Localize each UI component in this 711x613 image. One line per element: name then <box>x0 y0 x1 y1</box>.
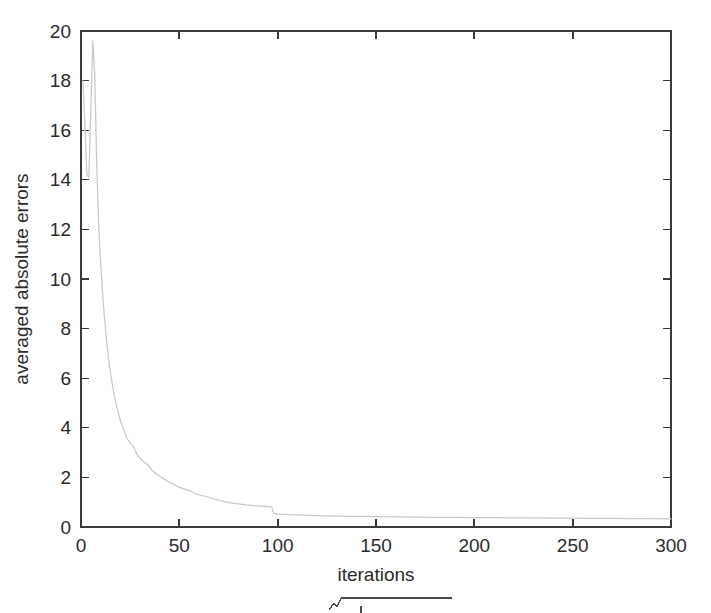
y-tick-label: 12 <box>50 219 71 240</box>
y-tick-label: 18 <box>50 70 71 91</box>
x-tick-label: 250 <box>557 535 589 556</box>
y-tick-label: 6 <box>60 368 71 389</box>
y-tick-marks <box>81 31 671 527</box>
x-axis-title: iterations <box>337 564 414 585</box>
x-tick-label: 300 <box>655 535 687 556</box>
plot-frame <box>81 31 671 527</box>
y-tick-label: 20 <box>50 21 71 42</box>
x-tick-marks <box>81 31 671 527</box>
y-tick-label: 0 <box>60 517 71 538</box>
y-axis-title: averaged absolute errors <box>11 173 32 384</box>
y-tick-labels: 02468101214161820 <box>50 21 72 538</box>
y-tick-label: 10 <box>50 269 71 290</box>
x-tick-labels: 050100150200250300 <box>76 535 687 556</box>
x-tick-label: 100 <box>262 535 294 556</box>
x-tick-label: 150 <box>360 535 392 556</box>
y-tick-label: 4 <box>60 417 71 438</box>
x-tick-label: 0 <box>76 535 87 556</box>
y-tick-label: 16 <box>50 120 71 141</box>
y-tick-label: 8 <box>60 318 71 339</box>
x-tick-label: 200 <box>458 535 490 556</box>
figure-container: 050100150200250300 02468101214161820 ite… <box>0 0 711 613</box>
chart-canvas: 050100150200250300 02468101214161820 ite… <box>0 0 711 613</box>
caption-formula-partial <box>329 598 452 613</box>
y-tick-label: 2 <box>60 467 71 488</box>
y-tick-label: 14 <box>50 169 72 190</box>
data-series-averaged-absolute-errors <box>83 41 671 519</box>
x-tick-label: 50 <box>169 535 190 556</box>
